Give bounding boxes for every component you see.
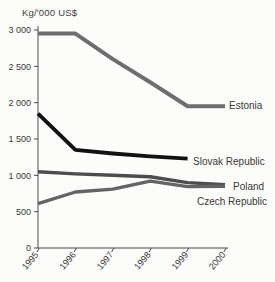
x-tick xyxy=(74,248,76,252)
y-tick-label: 1 000 xyxy=(8,171,31,181)
x-tick-label: 1996 xyxy=(57,250,78,272)
x-tick-label: 1999 xyxy=(170,250,191,272)
series-label-czech-republic: Czech Republic xyxy=(197,196,267,207)
x-tick-label: 2000 xyxy=(207,250,228,272)
series-label-slovak-republic: Slovak Republic xyxy=(193,156,265,167)
chart-container: Kg/'000 US$ 05001 0001 5002 0002 5003 00… xyxy=(0,0,275,282)
series-label-estonia: Estonia xyxy=(229,100,263,111)
x-tick xyxy=(37,248,39,252)
x-tick xyxy=(224,248,226,252)
series-label-poland: Poland xyxy=(233,181,264,192)
x-tick-label: 1997 xyxy=(95,250,116,272)
x-tick xyxy=(149,248,151,252)
y-tick-label: 2 000 xyxy=(8,98,31,108)
y-tick-label: 3 000 xyxy=(8,25,31,35)
x-tick-label: 1998 xyxy=(132,250,153,272)
x-tick-label: 1995 xyxy=(20,250,41,272)
x-tick xyxy=(186,248,188,252)
series-line-slovak-republic xyxy=(38,114,188,159)
y-tick-label: 2 500 xyxy=(8,62,31,72)
line-chart: 05001 0001 5002 0002 5003 00019951996199… xyxy=(0,0,275,282)
series-line-estonia xyxy=(38,34,225,107)
y-tick-label: 1 500 xyxy=(8,134,31,144)
series-line-poland xyxy=(38,172,225,185)
x-tick xyxy=(112,248,114,252)
y-tick-label: 500 xyxy=(16,207,31,217)
